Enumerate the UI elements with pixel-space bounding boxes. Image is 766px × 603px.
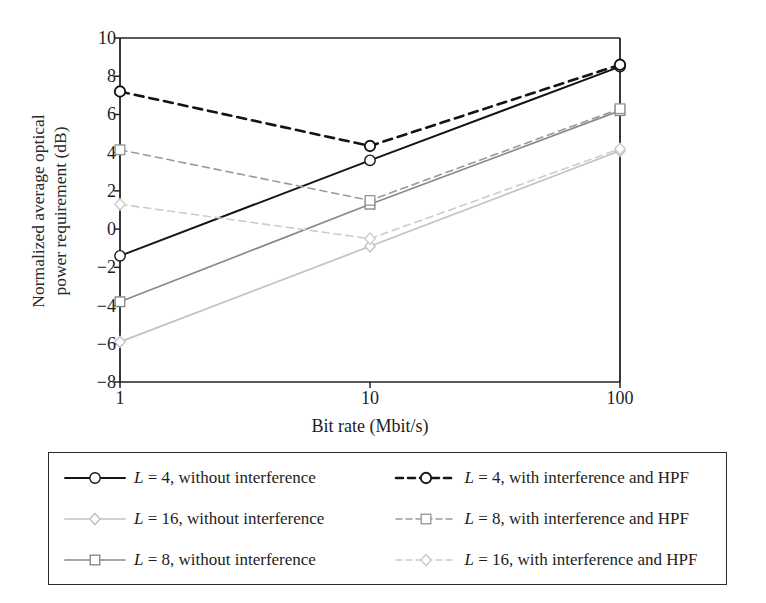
data-point-marker [615, 104, 625, 114]
data-point-marker [420, 554, 430, 565]
legend-swatch [63, 511, 127, 527]
legend-swatch [63, 470, 127, 486]
data-point-marker [365, 196, 375, 206]
square-marker [421, 514, 431, 524]
legend-label: L = 16, without interference [134, 509, 324, 529]
legend-label: L = 8, with interference and HPF [465, 509, 689, 529]
series-3 [115, 145, 625, 347]
diamond-marker [420, 554, 430, 565]
diamond-marker [115, 199, 125, 210]
legend-item[interactable]: L = 16, without interference [57, 498, 388, 539]
diamond-marker [365, 233, 375, 244]
diamond-marker [115, 336, 125, 347]
circle-marker [115, 251, 125, 261]
figure-root: Normalized average optical power require… [0, 0, 766, 603]
legend-label: L = 4, with interference and HPF [465, 468, 689, 488]
data-point-marker [365, 141, 375, 151]
square-marker [90, 555, 100, 565]
square-marker [615, 104, 625, 114]
legend-swatch [63, 552, 127, 568]
legend-label: L = 8, without interference [134, 550, 316, 570]
legend-item[interactable]: L = 4, without interference [57, 457, 388, 498]
circle-marker [365, 155, 375, 165]
series-1 [115, 61, 625, 261]
legend-item[interactable]: L = 8, with interference and HPF [388, 498, 719, 539]
x-tick-label: 10 [361, 388, 379, 409]
diamond-marker [90, 513, 100, 524]
square-marker [365, 196, 375, 206]
legend-item[interactable]: L = 8, without interference [57, 539, 388, 580]
data-point-marker [90, 472, 100, 482]
circle-marker [615, 60, 625, 70]
data-point-marker [115, 297, 125, 307]
circle-marker [420, 472, 430, 482]
data-point-marker [365, 233, 375, 244]
data-point-marker [615, 60, 625, 70]
legend-swatch [394, 552, 458, 568]
data-point-marker [115, 336, 125, 347]
series-2 [115, 106, 625, 307]
circle-marker [115, 86, 125, 96]
data-point-marker [420, 472, 430, 482]
square-marker [115, 297, 125, 307]
data-point-marker [421, 514, 431, 524]
data-point-marker [115, 251, 125, 261]
data-point-marker [115, 145, 125, 155]
legend-item[interactable]: L = 4, with interference and HPF [388, 457, 719, 498]
legend-item[interactable]: L = 16, with interference and HPF [388, 539, 719, 580]
legend-label: L = 4, without interference [134, 468, 316, 488]
legend-swatch [394, 470, 458, 486]
circle-marker [365, 141, 375, 151]
x-tick-label: 1 [116, 388, 125, 409]
data-point-marker [90, 555, 100, 565]
x-tick-label: 100 [607, 388, 634, 409]
circle-marker [90, 472, 100, 482]
data-point-marker [115, 86, 125, 96]
legend: L = 4, without interferenceL = 4, with i… [48, 452, 727, 585]
legend-label: L = 16, with interference and HPF [465, 550, 698, 570]
x-axis-title: Bit rate (Mbit/s) [120, 416, 620, 437]
square-marker [115, 145, 125, 155]
data-point-marker [365, 155, 375, 165]
data-point-marker [115, 199, 125, 210]
data-point-marker [90, 513, 100, 524]
legend-swatch [394, 511, 458, 527]
series-line [120, 65, 620, 146]
